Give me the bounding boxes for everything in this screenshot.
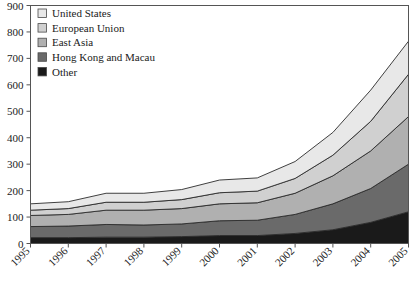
x-tick-label: 2002 xyxy=(272,244,296,268)
legend-swatch xyxy=(38,38,47,47)
legend-swatch xyxy=(38,9,47,18)
y-tick-label: 500 xyxy=(7,105,24,117)
y-tick-label: 400 xyxy=(7,132,24,144)
legend-swatch xyxy=(38,24,47,32)
x-tick-label: 1995 xyxy=(8,244,32,268)
chart-legend: United StatesEuropean UnionEast AsiaHong… xyxy=(38,7,155,77)
x-tick-label: 2001 xyxy=(235,244,259,268)
x-tick-label: 2003 xyxy=(310,244,334,268)
plot-areas xyxy=(31,41,409,243)
legend-item-label: Hong Kong and Macau xyxy=(52,51,155,63)
stacked-area-chart: 0100200300400500600700800900 19951996199… xyxy=(0,0,416,281)
legend-item-label: East Asia xyxy=(52,36,93,48)
x-tick-label: 2004 xyxy=(348,244,372,268)
legend-item-label: Other xyxy=(52,66,77,78)
y-tick-label: 300 xyxy=(7,158,24,170)
legend-item-label: United States xyxy=(52,7,111,19)
y-tick-label: 900 xyxy=(7,0,24,12)
legend-swatch xyxy=(38,53,47,62)
y-tick-label: 100 xyxy=(7,211,24,223)
x-tick-label: 1996 xyxy=(46,244,70,268)
y-tick-label: 600 xyxy=(7,79,24,91)
x-tick-label: 2005 xyxy=(386,244,410,268)
y-tick-label: 700 xyxy=(7,52,24,64)
x-axis-ticks: 1995199619971998199920002001200220032004… xyxy=(8,244,410,269)
y-axis-ticks: 0100200300400500600700800900 xyxy=(7,0,31,250)
y-tick-label: 800 xyxy=(7,26,24,38)
y-tick-label: 200 xyxy=(7,185,24,197)
legend-item-label: European Union xyxy=(52,22,125,34)
chart-canvas: 0100200300400500600700800900 19951996199… xyxy=(0,0,416,281)
x-tick-label: 1998 xyxy=(121,244,145,268)
legend-swatch xyxy=(38,67,47,76)
x-tick-label: 1999 xyxy=(159,244,183,268)
x-tick-label: 1997 xyxy=(83,244,107,268)
x-tick-label: 2000 xyxy=(197,244,221,268)
